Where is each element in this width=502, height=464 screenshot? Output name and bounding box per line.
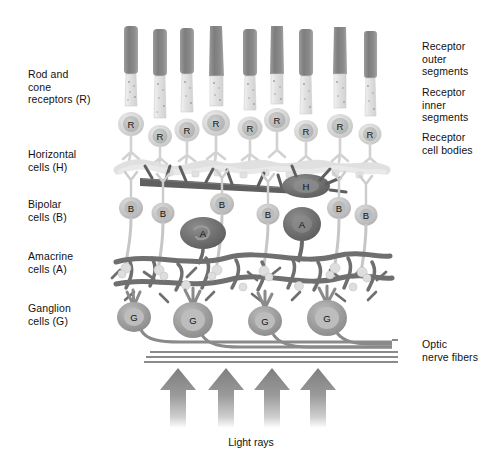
bipolar-letter: B [363, 210, 369, 221]
amacrine-letter: A [299, 219, 306, 230]
label-rod-cone-receptors: Rod and cone receptors (R) [28, 68, 120, 106]
receptor-letter: R [247, 123, 254, 134]
ganglion-letter: G [189, 315, 196, 326]
ganglion-cell: G [307, 286, 392, 344]
light-ray-arrow [254, 368, 290, 428]
light-ray-arrow [208, 368, 244, 428]
bipolar-letter: B [265, 209, 271, 220]
receptor-letter: R [274, 115, 281, 126]
retina-diagram: R R R [0, 0, 502, 464]
caption-light-rays: Light rays [201, 436, 301, 448]
label-receptor-cell-bodies: Receptor cell bodies [422, 131, 500, 156]
label-ganglion-cells: Ganglion cells (G) [28, 302, 120, 327]
label-amacrine-cells: Amacrine cells (A) [28, 250, 120, 275]
label-bipolar-cells: Bipolar cells (B) [28, 198, 120, 223]
receptor-letter: R [184, 125, 191, 136]
receptor-cell: R [238, 29, 263, 162]
bipolar-letter: B [160, 208, 166, 219]
receptor-letter: R [367, 129, 374, 140]
bipolar-letter: B [336, 203, 342, 214]
receptor-cell: R [359, 31, 382, 164]
receptor-cell: R [202, 26, 230, 161]
label-receptor-outer-segments: Receptor outer segments [422, 40, 500, 78]
ganglion-letter: G [323, 313, 330, 324]
amacrine-letter: A [200, 228, 207, 239]
light-ray-arrow [160, 368, 196, 428]
receptor-cell: R [175, 28, 200, 163]
inner-plexiform-layer [112, 254, 392, 302]
light-ray-arrow [300, 368, 336, 428]
receptor-cell: R [327, 27, 353, 162]
receptor-letter: R [157, 131, 164, 142]
receptor-letter: R [337, 121, 344, 132]
receptor-cell: R [148, 29, 172, 166]
label-optic-nerve-fibers: Optic nerve fibers [422, 338, 502, 363]
optic-nerve-fiber-layer [144, 352, 398, 362]
label-receptor-inner-segments: Receptor inner segments [422, 86, 500, 124]
ganglion-letter: G [130, 312, 137, 323]
bipolar-letter: B [219, 199, 225, 210]
receptor-letter: R [128, 119, 135, 130]
horizontal-cell-letter: H [303, 181, 310, 192]
label-horizontal-cells: Horizontal cells (H) [28, 148, 120, 173]
receptor-letter: R [303, 126, 310, 137]
ganglion-letter: G [261, 316, 268, 327]
bipolar-cell: B [327, 172, 351, 264]
receptor-cell: R [264, 26, 290, 157]
bipolar-letter: B [128, 203, 134, 214]
receptor-cell: R [294, 29, 318, 162]
receptor-cell: R [118, 26, 144, 161]
receptor-letter: R [213, 118, 220, 129]
ganglion-cell: G [173, 288, 392, 347]
amacrine-cell: A [283, 207, 321, 262]
bipolar-cell: B [119, 172, 143, 262]
